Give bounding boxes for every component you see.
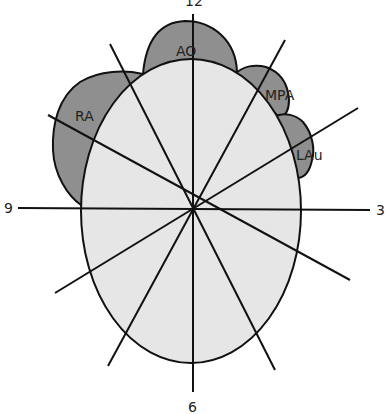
ra-label: RA [75, 108, 94, 124]
lau-label: LAu [296, 147, 323, 163]
mpa-label: MPA [265, 87, 295, 103]
clock-lines [18, 14, 370, 392]
clock-label-9: 9 [4, 200, 13, 216]
clock-label-12: 12 [185, 0, 203, 9]
ao-label: AO [176, 43, 196, 59]
heart-clock-diagram: AO MPA LAu RA 12 3 6 9 [0, 0, 387, 414]
clock-label-6: 6 [188, 399, 197, 414]
clock-label-3: 3 [376, 202, 385, 218]
